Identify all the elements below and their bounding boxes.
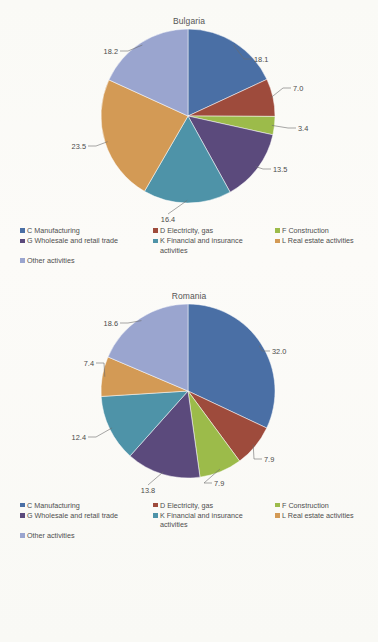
leader-line: [88, 142, 108, 146]
legend-label-electricity: D Electricity, gas: [160, 501, 213, 510]
legend-swatch-real_estate-icon: [275, 239, 280, 244]
legend-item-real_estate: L Real estate activities: [275, 236, 375, 246]
legend-swatch-construction-icon: [275, 503, 280, 508]
pie-value-label-other: 18.2: [104, 47, 118, 56]
legend-swatch-financial-icon: [153, 513, 158, 518]
pie-value-label-financial: 12.4: [72, 433, 86, 442]
legend-label-wholesale: G Wholesale and retail trade: [27, 236, 118, 245]
leader-line: [88, 428, 112, 437]
legend-item-financial: K Financial and insurance activities: [153, 511, 275, 531]
legend-label-construction: F Construction: [282, 226, 329, 235]
legend-swatch-electricity-icon: [153, 503, 158, 508]
legend-swatch-construction-icon: [275, 228, 280, 233]
pie-plot-bulgaria: 18.17.03.413.516.423.518.2: [0, 26, 378, 226]
chart-title-romania: Romania: [0, 289, 378, 301]
pie-value-label-electricity: 7.0: [293, 84, 303, 93]
legend-label-wholesale: G Wholesale and retail trade: [27, 511, 118, 520]
pie-svg-romania: 32.07.97.913.812.47.418.6: [0, 301, 378, 501]
legend-item-electricity: D Electricity, gas: [153, 226, 275, 236]
legend-item-construction: F Construction: [275, 226, 375, 236]
pie-value-label-financial: 16.4: [161, 215, 175, 224]
legend-label-manufacturing: C Manufacturing: [27, 226, 80, 235]
legend-swatch-real_estate-icon: [275, 513, 280, 518]
legend-label-financial: K Financial and insurance activities: [160, 236, 243, 255]
pie-value-label-construction: 3.4: [298, 124, 308, 133]
legend-item-construction: F Construction: [275, 501, 375, 511]
legend-item-manufacturing: C Manufacturing: [20, 501, 153, 511]
pie-label-group-real_estate: 7.4: [84, 359, 105, 377]
legend-item-other: Other activities: [20, 531, 153, 541]
pie-value-label-construction: 7.9: [214, 479, 224, 488]
pie-label-group-wholesale: 13.8: [141, 471, 164, 494]
pie-label-group-financial: 16.4: [161, 200, 187, 224]
legend-bulgaria: C ManufacturingD Electricity, gasF Const…: [0, 226, 378, 267]
legend-romania: C ManufacturingD Electricity, gasF Const…: [0, 501, 378, 542]
legend-label-real_estate: L Real estate activities: [282, 236, 354, 245]
pie-value-label-manufacturing: 32.0: [272, 347, 286, 356]
legend-item-electricity: D Electricity, gas: [153, 501, 275, 511]
legend-swatch-manufacturing-icon: [20, 503, 25, 508]
pie-label-group-wholesale: 13.5: [256, 165, 288, 174]
pie-value-label-electricity: 7.9: [264, 455, 274, 464]
pie-label-group-financial: 12.4: [72, 428, 112, 442]
legend-label-construction: F Construction: [282, 501, 329, 510]
pie-value-label-wholesale: 13.5: [273, 165, 287, 174]
pie-svg-bulgaria: 18.17.03.413.516.423.518.2: [0, 26, 378, 226]
legend-swatch-other-icon: [20, 533, 25, 538]
pie-value-label-real_estate: 23.5: [72, 142, 86, 151]
legend-item-wholesale: G Wholesale and retail trade: [20, 236, 153, 246]
legend-item-real_estate: L Real estate activities: [275, 511, 375, 521]
legend-swatch-electricity-icon: [153, 228, 158, 233]
leader-line: [148, 471, 163, 484]
pie-label-group-construction: 3.4: [272, 124, 308, 133]
leader-line: [272, 125, 296, 128]
legend-label-real_estate: L Real estate activities: [282, 511, 354, 520]
legend-swatch-manufacturing-icon: [20, 228, 25, 233]
pie-value-label-manufacturing: 18.1: [254, 55, 268, 64]
pie-value-label-real_estate: 7.4: [84, 359, 94, 368]
legend-swatch-financial-icon: [153, 239, 158, 244]
legend-item-other: Other activities: [20, 256, 153, 266]
pie-value-label-other: 18.6: [104, 319, 118, 328]
pie-plot-romania: 32.07.97.913.812.47.418.6: [0, 301, 378, 501]
legend-swatch-other-icon: [20, 258, 25, 263]
pie-label-group-electricity: 7.0: [270, 84, 303, 98]
legend-item-wholesale: G Wholesale and retail trade: [20, 511, 153, 521]
chart-title-bulgaria: Bulgaria: [0, 14, 378, 26]
pie-label-group-real_estate: 23.5: [72, 142, 108, 151]
pie-value-label-wholesale: 13.8: [141, 486, 155, 495]
legend-label-other: Other activities: [27, 531, 75, 540]
chart-block-bulgaria: Bulgaria 18.17.03.413.516.423.518.2 C Ma…: [0, 0, 378, 267]
chart-block-romania: Romania 32.07.97.913.812.47.418.6 C Manu…: [0, 289, 378, 542]
leader-line: [270, 88, 291, 98]
legend-swatch-wholesale-icon: [20, 513, 25, 518]
legend-label-other: Other activities: [27, 256, 75, 265]
legend-label-financial: K Financial and insurance activities: [160, 511, 243, 530]
legend-swatch-wholesale-icon: [20, 239, 25, 244]
legend-label-electricity: D Electricity, gas: [160, 226, 213, 235]
legend-item-manufacturing: C Manufacturing: [20, 226, 153, 236]
legend-label-manufacturing: C Manufacturing: [27, 501, 80, 510]
pie-label-group-electricity: 7.9: [253, 444, 274, 463]
legend-item-financial: K Financial and insurance activities: [153, 236, 275, 256]
